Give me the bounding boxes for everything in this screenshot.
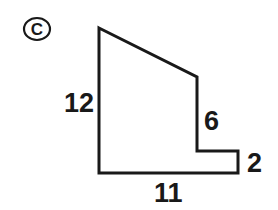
dimension-label-bottom-side: 11 [154, 180, 183, 207]
part-label-badge: C [22, 16, 52, 42]
geometry-figure-canvas: C 12 6 2 11 [0, 0, 278, 210]
irregular-polygon-outline [99, 28, 238, 173]
dimension-label-right-step: 2 [247, 150, 262, 177]
circled-letter-icon: C [22, 16, 52, 42]
part-label-letter: C [31, 20, 43, 39]
dimension-label-right-side: 6 [204, 108, 219, 135]
dimension-label-left-side: 12 [64, 90, 94, 117]
